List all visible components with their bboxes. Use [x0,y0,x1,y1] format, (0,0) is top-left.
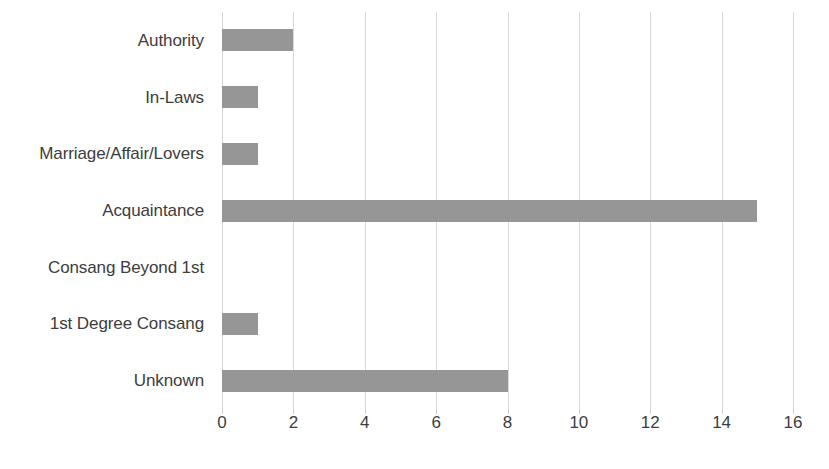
x-axis-tick-6: 6 [431,414,440,431]
bar-authority [222,29,293,51]
bar-series [222,12,793,409]
bar-row [222,69,793,126]
bar-row [222,12,793,69]
x-tick-mark-12 [650,409,651,414]
bar-row [222,125,793,182]
bar-1st-degree-consang [222,313,258,335]
y-axis-tick-label: Marriage/Affair/Lovers [39,145,204,162]
y-axis-tick-label: 1st Degree Consang [50,315,204,332]
bar-unknown [222,370,508,392]
y-axis-tick-marriage-affair-lovers: Marriage/Affair/Lovers [0,125,212,182]
x-tick-mark-16 [793,409,794,414]
bar-row [222,182,793,239]
x-axis-tick-0: 0 [217,414,226,431]
bar-row [222,239,793,296]
x-tick-mark-14 [722,409,723,414]
x-tick-mark-10 [579,409,580,414]
y-axis-tick-acquaintance: Acquaintance [0,182,212,239]
x-axis-tick-14: 14 [712,414,731,431]
bar-row [222,352,793,409]
y-axis-tick-unknown: Unknown [0,352,212,409]
x-axis-tick-10: 10 [569,414,588,431]
y-axis-tick-1st-degree-consang: 1st Degree Consang [0,296,212,353]
x-tick-mark-6 [436,409,437,414]
gridline-16 [793,12,794,409]
x-tick-mark-8 [508,409,509,414]
bar-marriage-affair-lovers [222,143,258,165]
x-axis-tick-labels: 0246810121416 [222,414,793,448]
y-axis-tick-in-laws: In-Laws [0,69,212,126]
x-tick-mark-4 [365,409,366,414]
bar-acquaintance [222,200,757,222]
plot-area [222,12,793,409]
x-axis-tick-8: 8 [503,414,512,431]
y-axis-tick-label: In-Laws [145,89,204,106]
x-axis-tick-2: 2 [289,414,298,431]
y-axis-tick-label: Acquaintance [102,202,204,219]
x-axis-tick-16: 16 [784,414,803,431]
y-axis-category-labels: Authority In-Laws Marriage/Affair/Lovers… [0,12,212,409]
bar-chart: Authority In-Laws Marriage/Affair/Lovers… [0,0,829,469]
y-axis-tick-consang-beyond-1st: Consang Beyond 1st [0,239,212,296]
x-axis-tick-4: 4 [360,414,369,431]
x-axis-tick-12: 12 [641,414,660,431]
bar-row [222,296,793,353]
x-tick-mark-2 [293,409,294,414]
y-axis-tick-authority: Authority [0,12,212,69]
bar-in-laws [222,86,258,108]
x-tick-mark-0 [222,409,223,414]
y-axis-tick-label: Authority [138,32,204,49]
y-axis-tick-label: Unknown [134,372,204,389]
y-axis-tick-label: Consang Beyond 1st [48,259,204,276]
